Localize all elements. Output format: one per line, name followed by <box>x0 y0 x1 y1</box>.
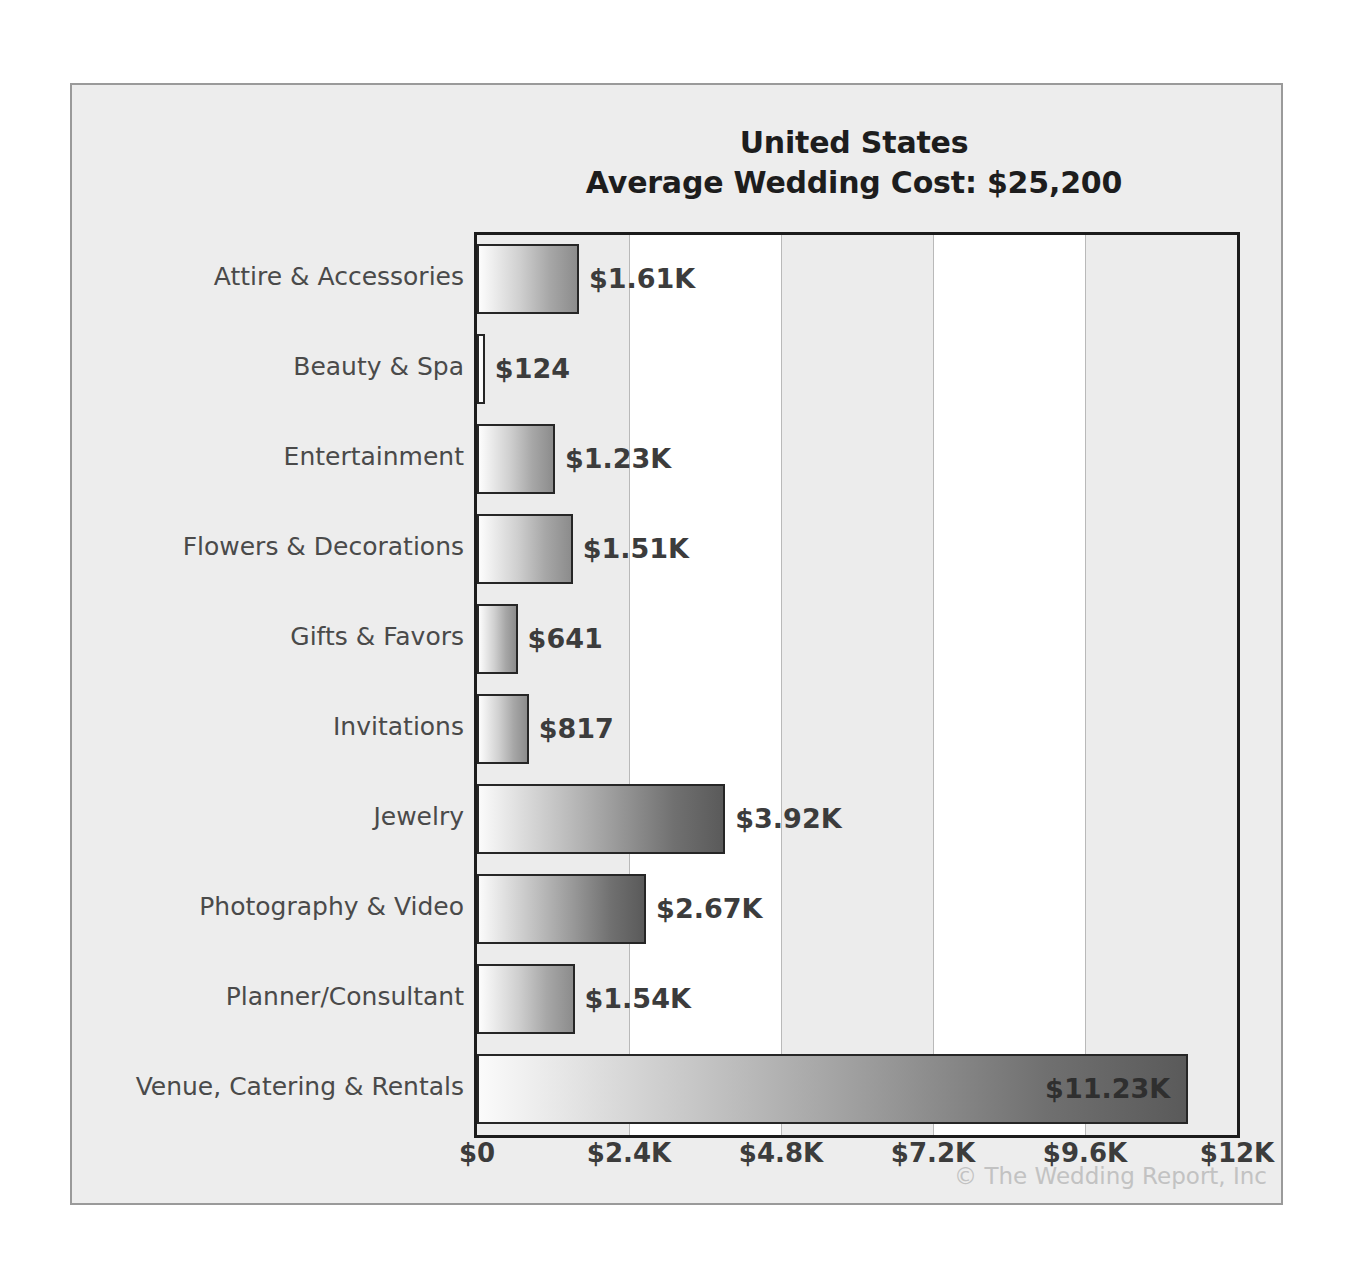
credit-label: © The Wedding Report, Inc <box>954 1163 1267 1189</box>
bar-row[interactable]: $1.61K <box>477 235 1237 325</box>
category-label: Flowers & Decorations <box>183 502 474 592</box>
bar-value-label: $1.51K <box>573 514 689 584</box>
bar-value-label: $11.23K <box>477 1054 1170 1124</box>
category-label: Beauty & Spa <box>293 322 474 412</box>
category-label: Jewelry <box>373 772 474 862</box>
bar-value-label: $1.61K <box>579 244 695 314</box>
bar-row[interactable]: $641 <box>477 595 1237 685</box>
bar-value-label: $3.92K <box>725 784 841 854</box>
chart-title-line1: United States <box>740 125 969 160</box>
bar-row[interactable]: $1.54K <box>477 955 1237 1045</box>
bar[interactable] <box>477 964 575 1034</box>
x-tick-label: $0 <box>459 1138 495 1168</box>
bar[interactable] <box>477 244 579 314</box>
bar-value-label: $1.23K <box>555 424 671 494</box>
bar[interactable] <box>477 514 573 584</box>
bar-row[interactable]: $124 <box>477 325 1237 415</box>
bar-row[interactable]: $11.23K <box>477 1045 1237 1135</box>
bar-value-label: $2.67K <box>646 874 762 944</box>
bar-row[interactable]: $2.67K <box>477 865 1237 955</box>
category-label: Invitations <box>333 682 474 772</box>
plot-area: $1.61K$124$1.23K$1.51K$641$817$3.92K$2.6… <box>474 232 1240 1138</box>
chart-title-line2: Average Wedding Cost: $25,200 <box>474 163 1234 203</box>
bar[interactable] <box>477 694 529 764</box>
chart-title: United States Average Wedding Cost: $25,… <box>474 123 1234 203</box>
x-tick-label: $4.8K <box>739 1138 823 1168</box>
chart-panel: United States Average Wedding Cost: $25,… <box>70 83 1283 1205</box>
category-label: Entertainment <box>284 412 474 502</box>
bar-row[interactable]: $817 <box>477 685 1237 775</box>
category-label: Gifts & Favors <box>290 592 474 682</box>
bar[interactable] <box>477 784 725 854</box>
bar-row[interactable]: $1.51K <box>477 505 1237 595</box>
bar-row[interactable]: $1.23K <box>477 415 1237 505</box>
category-label: Planner/Consultant <box>226 952 474 1042</box>
bar-row[interactable]: $3.92K <box>477 775 1237 865</box>
bar-value-label: $641 <box>518 604 603 674</box>
category-label: Photography & Video <box>199 862 474 952</box>
bar[interactable] <box>477 334 485 404</box>
x-tick-label: $2.4K <box>587 1138 671 1168</box>
category-label: Attire & Accessories <box>214 232 474 322</box>
bar[interactable] <box>477 874 646 944</box>
bar[interactable] <box>477 604 518 674</box>
category-label: Venue, Catering & Rentals <box>136 1042 474 1132</box>
bar-value-label: $124 <box>485 334 570 404</box>
bar-value-label: $817 <box>529 694 614 764</box>
category-axis: Attire & AccessoriesBeauty & SpaEntertai… <box>72 232 474 1132</box>
bar[interactable] <box>477 424 555 494</box>
bar-value-label: $1.54K <box>575 964 691 1034</box>
